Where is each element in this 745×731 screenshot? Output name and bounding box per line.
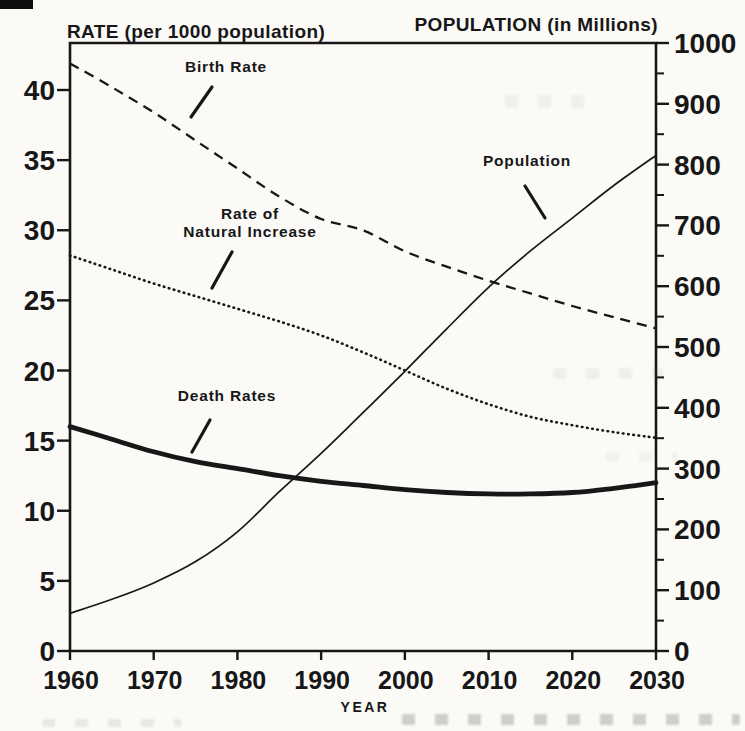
series-callouts: Birth RateRate ofNatural IncreaseDeath R… [178, 58, 571, 452]
right-axis-labels: 01002003004005006007008009001000 [674, 28, 736, 667]
right-axis-tick-label: 300 [674, 454, 721, 485]
left-axis-tick-label: 10 [24, 496, 55, 527]
rate-of-natural-increase-pointer-line [212, 252, 232, 288]
death-rates-line [70, 427, 656, 495]
left-axis-tick-label: 30 [24, 215, 55, 246]
x-axis-tick-label: 1960 [43, 666, 99, 694]
rate-of-natural-increase-line [70, 256, 656, 438]
population-line [70, 156, 656, 614]
x-axis-tick-label: 1990 [294, 666, 350, 694]
scan-artifact-corner [0, 0, 33, 9]
right-axis-tick-label: 900 [674, 89, 721, 120]
x-axis-tick-label: 2010 [462, 666, 518, 694]
right-axis-tick-label: 600 [674, 271, 721, 302]
scan-artifact [402, 714, 740, 725]
death-rates-pointer-line [192, 420, 210, 452]
rate-of-natural-increase-label: Rate of [221, 205, 279, 222]
right-axis-tick-label: 400 [674, 393, 721, 424]
population-label: Population [483, 152, 571, 169]
x-axis-tick-label: 2020 [545, 666, 601, 694]
left-axis-tick-label: 40 [24, 75, 55, 106]
right-axis-tick-label: 700 [674, 210, 721, 241]
left-axis-tick-label: 20 [24, 356, 55, 387]
right-axis-tick-label: 500 [674, 332, 721, 363]
left-axis-labels: 0510152025303540 [24, 75, 55, 667]
x-axis-tick-label: 1970 [127, 666, 183, 694]
series-lines [70, 63, 656, 613]
plot-border-group [70, 43, 656, 651]
right-axis-ticks [656, 43, 669, 651]
scan-artifact [553, 368, 663, 379]
population-rates-chart: 0510152025303540 01002003004005006007008… [0, 0, 745, 731]
birth-rate-pointer-line [191, 87, 212, 117]
x-axis-tick-label: 1980 [211, 666, 267, 694]
population-pointer-line [525, 186, 545, 218]
x-axis-tick-label: 2030 [629, 666, 685, 694]
scanned-page: { "page": { "paper": "#fbfaf7", "ink": "… [0, 0, 745, 731]
right-axis-tick-label: 200 [674, 514, 721, 545]
x-axis-tick-label: 2000 [378, 666, 434, 694]
birth-rate-label: Birth Rate [185, 58, 267, 75]
left-axis-ticks [57, 90, 70, 651]
x-axis-labels: 19601970198019902000201020202030 [43, 666, 685, 694]
scan-artifact [606, 452, 678, 462]
right-axis-tick-label: 100 [674, 575, 721, 606]
right-axis-tick-label: 1000 [674, 28, 736, 59]
left-axis-tick-label: 0 [39, 636, 55, 667]
rate-of-natural-increase-label: Natural Increase [183, 223, 316, 240]
x-axis-ticks [70, 651, 656, 660]
left-axis-tick-label: 25 [24, 285, 55, 316]
death-rates-label: Death Rates [178, 387, 276, 404]
left-axis-tick-label: 35 [24, 145, 55, 176]
scan-artifact [42, 719, 182, 727]
plot-border [70, 43, 656, 651]
right-axis-tick-label: 800 [674, 150, 721, 181]
right-axis-tick-label: 0 [674, 636, 690, 667]
scan-artifact [505, 95, 589, 108]
left-axis-tick-label: 15 [24, 426, 55, 457]
x-axis-title: YEAR [341, 699, 390, 715]
left-axis-tick-label: 5 [39, 566, 55, 597]
